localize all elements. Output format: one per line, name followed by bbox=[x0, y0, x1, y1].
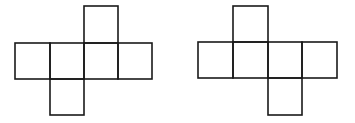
net-square bbox=[198, 42, 233, 78]
net-square bbox=[15, 43, 50, 79]
net-square bbox=[50, 79, 84, 115]
cube-net-right bbox=[198, 6, 337, 115]
net-square bbox=[233, 42, 268, 78]
net-square bbox=[50, 43, 84, 79]
net-square bbox=[84, 43, 118, 79]
net-square bbox=[302, 42, 337, 78]
net-square bbox=[233, 6, 268, 42]
cube-net-left bbox=[15, 6, 152, 115]
net-square bbox=[268, 78, 302, 115]
net-square bbox=[84, 6, 118, 43]
diagram-canvas bbox=[0, 0, 355, 123]
net-square bbox=[268, 42, 302, 78]
net-square bbox=[118, 43, 152, 79]
